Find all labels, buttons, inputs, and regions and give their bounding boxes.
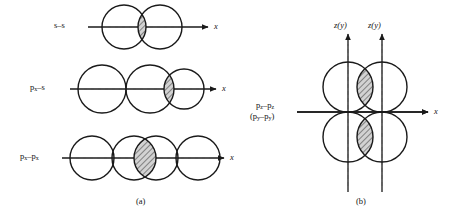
row-px-px [62, 136, 224, 180]
axis-label-zy-left: z(y) [334, 20, 347, 30]
panel-b-group [297, 34, 428, 192]
caption-b: (b) [356, 196, 366, 206]
row-s-s [88, 5, 208, 49]
axis-label-zy-right: z(y) [368, 20, 381, 30]
caption-a: (a) [136, 196, 145, 206]
label-px-s: px–s [30, 83, 45, 93]
orbital-overlap-figure: s–s px–s px–px x x x pz–pz (py–py) x z(y… [0, 0, 459, 217]
axis-label-x-row3: x [230, 152, 234, 162]
axis-label-x-row2: x [222, 83, 226, 93]
label-px-px: px–px [20, 152, 39, 162]
label-pz-pz: pz–pz [256, 101, 274, 111]
label-py-py: (py–py) [250, 112, 274, 122]
label-s-s: s–s [54, 21, 65, 31]
figure-canvas [0, 0, 459, 217]
axis-label-x-row1: x [214, 21, 218, 31]
axis-label-x-panel-b: x [434, 106, 438, 116]
row-px-s [70, 65, 216, 113]
